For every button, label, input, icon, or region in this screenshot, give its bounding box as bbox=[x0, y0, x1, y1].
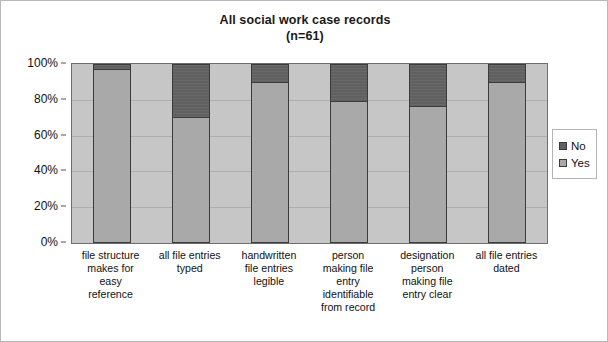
x-axis-label-line: file entries bbox=[229, 262, 308, 275]
stacked-bar[interactable] bbox=[172, 64, 210, 243]
bar-group bbox=[389, 64, 468, 243]
bar-group bbox=[72, 64, 151, 243]
legend-label: Yes bbox=[571, 157, 590, 169]
x-axis-label-line: legible bbox=[229, 275, 308, 288]
x-axis: file structuremakes foreasyreferenceall … bbox=[71, 249, 546, 333]
stacked-bar[interactable] bbox=[330, 64, 368, 243]
stacked-bar[interactable] bbox=[488, 64, 526, 243]
x-axis-label-line: designation bbox=[388, 249, 467, 262]
x-axis-label-line: making file bbox=[388, 275, 467, 288]
x-axis-label-line: identifiable bbox=[309, 288, 388, 301]
bar-segment-yes[interactable] bbox=[331, 102, 367, 242]
chart-legend: NoYes bbox=[552, 129, 597, 179]
y-axis-tick-label: 0% bbox=[41, 235, 58, 249]
bar-segment-no[interactable] bbox=[331, 65, 367, 102]
bar-segment-no[interactable] bbox=[173, 65, 209, 118]
x-axis-label-line: from record bbox=[309, 301, 388, 314]
stacked-bar[interactable] bbox=[251, 64, 289, 243]
x-axis-label-line: person bbox=[388, 262, 467, 275]
stacked-bar[interactable] bbox=[409, 64, 447, 243]
y-axis-tick-mark bbox=[61, 170, 66, 171]
x-axis-label-line: entry clear bbox=[388, 288, 467, 301]
chart-title-main: All social work case records bbox=[220, 13, 391, 27]
x-axis-label-line: reference bbox=[71, 288, 150, 301]
chart-title: All social work case records (n=61) bbox=[1, 12, 608, 44]
stacked-bar[interactable] bbox=[93, 64, 131, 243]
x-axis-label-line: easy bbox=[71, 275, 150, 288]
x-axis-tick-label: file structuremakes foreasyreference bbox=[71, 249, 150, 301]
y-axis-tick-label: 40% bbox=[34, 163, 58, 177]
bar-group bbox=[230, 64, 309, 243]
y-axis-tick-mark bbox=[61, 242, 66, 243]
bar-segment-no[interactable] bbox=[410, 65, 446, 107]
x-axis-tick-label: all file entriesdated bbox=[467, 249, 546, 275]
x-axis-label-line: makes for bbox=[71, 262, 150, 275]
x-axis-tick-label: personmaking fileentryidentifiablefrom r… bbox=[309, 249, 388, 314]
bar-segment-yes[interactable] bbox=[410, 107, 446, 242]
x-axis-tick-label: designationpersonmaking fileentry clear bbox=[388, 249, 467, 301]
bar-segment-yes[interactable] bbox=[94, 70, 130, 242]
x-axis-label-line: dated bbox=[467, 262, 546, 275]
y-axis-tick-mark bbox=[61, 98, 66, 99]
x-axis-label-line: all file entries bbox=[150, 249, 229, 262]
bar-group bbox=[310, 64, 389, 243]
bar-segment-yes[interactable] bbox=[173, 118, 209, 242]
y-axis-tick-label: 80% bbox=[34, 92, 58, 106]
legend-label: No bbox=[571, 140, 586, 152]
legend-swatch-icon bbox=[559, 159, 567, 167]
x-axis-label-line: file structure bbox=[71, 249, 150, 262]
x-axis-label-line: entry bbox=[309, 275, 388, 288]
x-axis-label-line: typed bbox=[150, 262, 229, 275]
y-axis-tick-label: 60% bbox=[34, 128, 58, 142]
bar-group bbox=[468, 64, 547, 243]
x-axis-tick-label: all file entriestyped bbox=[150, 249, 229, 275]
legend-item[interactable]: Yes bbox=[559, 154, 591, 171]
bar-group bbox=[151, 64, 230, 243]
legend-swatch-icon bbox=[559, 142, 567, 150]
y-axis-tick-mark bbox=[61, 134, 66, 135]
x-axis-label-line: making file bbox=[309, 262, 388, 275]
x-axis-label-line: handwritten bbox=[229, 249, 308, 262]
x-axis-label-line: person bbox=[309, 249, 388, 262]
y-axis-tick-mark bbox=[61, 206, 66, 207]
chart-container: All social work case records (n=61) 100%… bbox=[0, 0, 608, 342]
x-axis-label-line: all file entries bbox=[467, 249, 546, 262]
x-axis-tick-label: handwrittenfile entrieslegible bbox=[229, 249, 308, 288]
bar-segment-yes[interactable] bbox=[489, 83, 525, 242]
bar-segment-no[interactable] bbox=[94, 65, 130, 70]
plot-area bbox=[71, 63, 548, 244]
chart-subtitle: (n=61) bbox=[1, 28, 608, 44]
bar-segment-no[interactable] bbox=[252, 65, 288, 83]
y-axis-tick-label: 20% bbox=[34, 199, 58, 213]
y-axis-tick-mark bbox=[61, 63, 66, 64]
bar-segment-yes[interactable] bbox=[252, 83, 288, 242]
legend-item[interactable]: No bbox=[559, 137, 591, 154]
bar-segment-no[interactable] bbox=[489, 65, 525, 83]
y-axis: 100%80%60%40%20%0% bbox=[1, 63, 66, 243]
y-axis-tick-label: 100% bbox=[27, 56, 58, 70]
